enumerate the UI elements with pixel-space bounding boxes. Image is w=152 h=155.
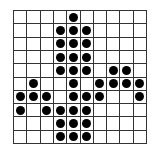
dot-marker xyxy=(69,79,78,88)
dot-marker xyxy=(42,106,51,115)
grid-cell xyxy=(27,24,40,37)
dot-marker xyxy=(56,26,65,35)
grid-cell xyxy=(107,64,120,77)
grid-cell xyxy=(27,38,40,51)
grid-cell xyxy=(14,11,27,24)
grid-cell xyxy=(14,91,27,104)
grid-cell xyxy=(67,131,80,144)
grid-cell xyxy=(134,104,147,117)
grid-cell xyxy=(54,64,67,77)
grid-cell xyxy=(41,78,54,91)
grid-cell xyxy=(94,11,107,24)
grid-cell xyxy=(41,38,54,51)
grid-cell xyxy=(67,64,80,77)
dot-marker xyxy=(29,79,38,88)
grid-cell xyxy=(67,104,80,117)
dot-marker xyxy=(56,53,65,62)
dot-marker xyxy=(56,106,65,115)
grid-cell xyxy=(120,104,133,117)
grid-cell xyxy=(27,91,40,104)
dot-marker xyxy=(82,119,91,128)
grid-cell xyxy=(41,91,54,104)
grid-cell xyxy=(107,104,120,117)
grid-cell xyxy=(107,38,120,51)
dot-marker xyxy=(69,119,78,128)
grid-cell xyxy=(134,91,147,104)
grid-cell xyxy=(120,78,133,91)
grid-cell xyxy=(41,24,54,37)
dot-marker xyxy=(95,92,104,101)
grid-cell xyxy=(107,11,120,24)
grid-cell xyxy=(134,117,147,130)
grid-cell xyxy=(134,11,147,24)
dot-marker xyxy=(16,106,25,115)
grid-cell xyxy=(94,64,107,77)
grid-cell xyxy=(54,104,67,117)
grid-cell xyxy=(81,24,94,37)
grid-cell xyxy=(27,117,40,130)
grid-cell xyxy=(134,131,147,144)
grid-cell xyxy=(27,51,40,64)
grid-cell xyxy=(27,104,40,117)
dot-marker xyxy=(56,66,65,75)
grid-cell xyxy=(14,24,27,37)
grid-cell xyxy=(107,51,120,64)
dot-grid xyxy=(13,10,147,144)
grid-cell xyxy=(107,131,120,144)
grid-cell xyxy=(14,64,27,77)
grid-cell xyxy=(67,91,80,104)
dot-marker xyxy=(109,66,118,75)
grid-cell xyxy=(94,131,107,144)
grid-cell xyxy=(81,91,94,104)
grid-cell xyxy=(81,51,94,64)
dot-marker xyxy=(122,79,131,88)
grid-cell xyxy=(107,117,120,130)
grid-cell xyxy=(54,51,67,64)
grid-cell xyxy=(120,11,133,24)
grid-cell xyxy=(41,131,54,144)
grid-cell xyxy=(81,78,94,91)
dot-marker xyxy=(95,79,104,88)
grid-cell xyxy=(14,104,27,117)
dot-marker xyxy=(69,106,78,115)
dot-marker xyxy=(69,132,78,141)
grid-cell xyxy=(81,11,94,24)
dot-marker xyxy=(69,39,78,48)
dot-marker xyxy=(122,66,131,75)
grid-cell xyxy=(41,11,54,24)
dot-marker xyxy=(82,92,91,101)
grid-cell xyxy=(27,11,40,24)
grid-cell xyxy=(134,51,147,64)
dot-marker xyxy=(82,39,91,48)
dot-marker xyxy=(82,106,91,115)
grid-cell xyxy=(134,78,147,91)
grid-cell xyxy=(54,78,67,91)
grid-cell xyxy=(94,24,107,37)
grid-cell xyxy=(81,38,94,51)
dot-marker xyxy=(135,79,144,88)
grid-cell xyxy=(14,78,27,91)
grid-cell xyxy=(107,24,120,37)
grid-cell xyxy=(107,91,120,104)
dot-marker xyxy=(69,66,78,75)
grid-cell xyxy=(120,64,133,77)
dot-marker xyxy=(16,92,25,101)
dot-marker xyxy=(109,79,118,88)
grid-cell xyxy=(134,24,147,37)
dot-marker xyxy=(82,26,91,35)
grid-cell xyxy=(94,91,107,104)
grid-cell xyxy=(14,38,27,51)
grid-cell xyxy=(94,117,107,130)
grid-cell xyxy=(54,131,67,144)
grid-cell xyxy=(54,24,67,37)
grid-cell xyxy=(41,104,54,117)
grid-cell xyxy=(120,91,133,104)
dot-marker xyxy=(29,92,38,101)
grid-cell xyxy=(14,51,27,64)
grid-cell xyxy=(94,78,107,91)
grid-cell xyxy=(81,117,94,130)
grid-cell xyxy=(54,117,67,130)
dot-marker xyxy=(82,66,91,75)
dot-marker xyxy=(69,13,78,22)
grid-cell xyxy=(27,131,40,144)
